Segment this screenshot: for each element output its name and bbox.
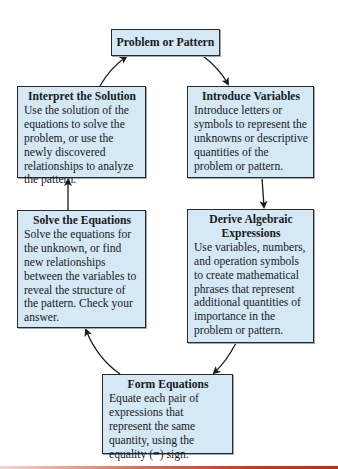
node-interpret-the-solution: Interpret the Solution Use the solution … [17,86,146,178]
node-solve-the-equations: Solve the Equations Solve the equations … [17,210,146,328]
arrow-derive-to-form [214,343,236,373]
node-description: Equate each pair of expressions that rep… [109,392,227,462]
node-title: Solve the Equations [24,214,140,228]
arrow-form-to-solve [86,330,120,374]
node-description: Use the solution of the equations to sol… [24,104,140,187]
arrow-interpret-to-problem [100,57,126,86]
node-title: Form Equations [109,378,227,392]
node-title: Introduce Variables [194,90,308,104]
node-description: Introduce letters or symbols to represen… [194,104,308,174]
node-form-equations: Form Equations Equate each pair of expre… [102,374,233,454]
node-title: Problem or Pattern [117,36,215,50]
node-problem-or-pattern: Problem or Pattern [111,29,220,56]
node-description: Use variables, numbers, and operation sy… [194,241,308,338]
node-description: Solve the equations for the unknown, or … [24,228,140,325]
node-derive-algebraic-expressions: Derive Algebraic Expressions Use variabl… [187,209,314,343]
node-title: Derive Algebraic Expressions [194,213,308,241]
node-introduce-variables: Introduce Variables Introduce letters or… [187,86,314,178]
arrow-introduce-to-derive [262,178,264,207]
arrow-problem-to-introduce [203,56,228,84]
node-title: Interpret the Solution [24,90,140,104]
